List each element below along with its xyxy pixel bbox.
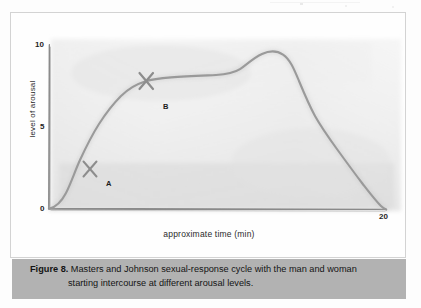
y-axis-title: level of arousal	[29, 67, 37, 151]
y-axis-tick-10: 10	[35, 41, 44, 49]
point-label-a: A	[106, 179, 111, 188]
x-axis-line	[49, 209, 386, 210]
figure-caption-label: Figure 8.	[30, 264, 68, 274]
y-axis-tick-5: 5	[40, 123, 44, 131]
x-axis-title: approximate time (min)	[11, 230, 407, 239]
chart-axes	[49, 45, 386, 211]
point-label-b: B	[163, 102, 168, 111]
x-axis-tick-20: 20	[379, 213, 388, 221]
arousal-cycle-chart	[11, 13, 407, 259]
figure-panel: 10 5 0 20 level of arousal approximate t…	[10, 12, 406, 258]
figure-caption-text: Figure 8. Masters and Johnson sexual-res…	[30, 263, 392, 290]
figure-caption-line2: starting intercourse at different arousa…	[30, 277, 392, 291]
marker-a-x-cross-icon	[84, 162, 97, 177]
pencil-shading	[51, 39, 401, 211]
y-axis-line	[49, 45, 50, 209]
arousal-curve-line	[50, 52, 387, 210]
y-axis-tick-0: 0	[40, 205, 44, 213]
chart-plot-area: 10 5 0 20 level of arousal approximate t…	[11, 13, 407, 259]
arousal-curve	[50, 52, 387, 210]
marker-b-x-cross-icon	[140, 73, 154, 89]
figure-caption-band: Figure 8. Masters and Johnson sexual-res…	[12, 259, 406, 299]
figure-caption-body: Masters and Johnson sexual-response cycl…	[71, 264, 357, 274]
